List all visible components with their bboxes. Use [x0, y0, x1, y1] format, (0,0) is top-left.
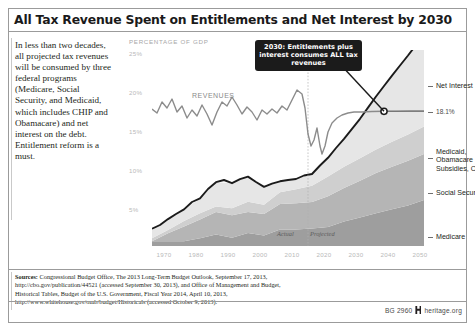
- y-tick-20: 20%: [129, 89, 151, 96]
- x-tick-2030: 2030: [344, 251, 368, 258]
- x-tick-1970: 1970: [152, 251, 176, 258]
- attribution: BG 2960 heritage.org: [385, 306, 462, 314]
- title-divider: [9, 31, 466, 32]
- legend-label-social-security: Social Security: [436, 189, 475, 197]
- callout-box: 2030: Entitlements plus interest consume…: [255, 40, 362, 71]
- x-tick-2050: 2050: [408, 251, 432, 258]
- marker-value-label: 18.1%: [436, 108, 455, 115]
- legend-label-medicare: Medicare: [436, 233, 465, 241]
- y-axis-caption: PERCENTAGE OF GDP: [129, 38, 209, 45]
- legend-tick-medicaid: [428, 158, 433, 159]
- phase-label-projected: Projected: [310, 230, 335, 237]
- chart-container: PERCENTAGE OF GDP 25% 20% 15% 10% 5%: [120, 38, 460, 268]
- sources-label: Sources:: [15, 273, 38, 280]
- x-tick-1990: 1990: [216, 251, 240, 258]
- x-tick-2040: 2040: [376, 251, 400, 258]
- revenues-series-label: REVENUES: [192, 92, 235, 99]
- blurb-divider: [11, 38, 12, 220]
- summary-text: In less than two decades, all projected …: [15, 40, 111, 162]
- footer-divider: [9, 269, 466, 270]
- x-tick-1980: 1980: [184, 251, 208, 258]
- y-tick-25: 25%: [129, 50, 151, 57]
- x-tick-2000: 2000: [248, 251, 272, 258]
- legend-label-medicaid: Medicaid, Obamacare Subsidies, CHIP: [436, 148, 475, 173]
- phase-label-actual: Actual: [277, 230, 294, 237]
- site-label[interactable]: heritage.org: [424, 307, 462, 314]
- page-title: All Tax Revenue Spent on Entitlements an…: [14, 12, 454, 27]
- legend-label-net-interest: Net Interest: [436, 82, 473, 90]
- callout-leader-line: [340, 64, 384, 111]
- sources-line-1: Congressional Budget Office, The 2013 Lo…: [38, 273, 267, 280]
- sources-line-2[interactable]: http://cbo.gov/publication/44521 (access…: [15, 281, 281, 288]
- heritage-logo-icon: [415, 306, 421, 314]
- y-tick-5: 5%: [129, 206, 151, 213]
- legend-tick-marker-value: [428, 112, 433, 113]
- y-tick-15: 15%: [129, 128, 151, 135]
- x-tick-2010: 2010: [280, 251, 304, 258]
- report-code: BG 2960: [385, 307, 412, 314]
- infographic-page: All Tax Revenue Spent on Entitlements an…: [0, 0, 475, 331]
- x-tick-2020: 2020: [312, 251, 336, 258]
- y-tick-10: 10%: [129, 167, 151, 174]
- legend-tick-medicare: [428, 237, 433, 238]
- legend-tick-social-security: [428, 193, 433, 194]
- stacked-area-svg: [152, 50, 424, 246]
- sources-line-3: Historical Tables, Budget of the U.S. Go…: [15, 290, 227, 297]
- attribution-divider: [9, 301, 466, 302]
- legend-tick-net-interest: [428, 86, 433, 87]
- plot-area: REVENUES Actual Projected: [152, 50, 424, 246]
- sources-divider: [11, 272, 12, 310]
